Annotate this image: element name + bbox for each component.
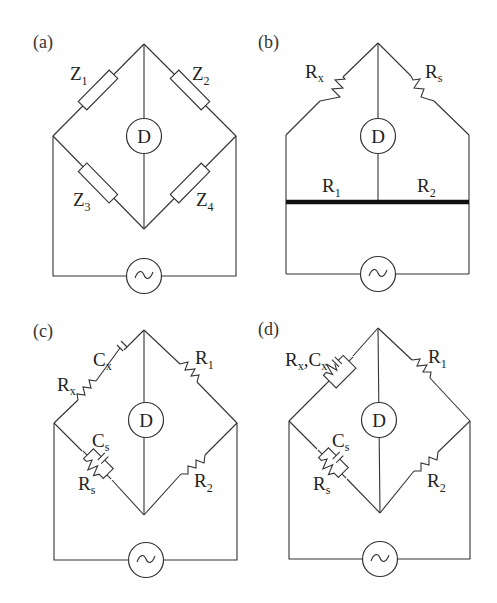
label-r1: R1 xyxy=(322,175,341,200)
svg-text:D: D xyxy=(371,126,385,147)
panel-c-label: (c) xyxy=(33,321,53,342)
label-rs: Rs xyxy=(313,473,331,497)
svg-text:D: D xyxy=(372,410,386,431)
ac-source-icon xyxy=(363,542,398,577)
detector-icon: D xyxy=(361,119,396,154)
label-r2: R2 xyxy=(427,470,446,495)
panel-d: (d) xyxy=(258,319,470,577)
bridge-circuits-figure: (a) Z1 Z2 Z3 Z4 D (b) xyxy=(0,0,497,603)
label-z4: Z4 xyxy=(196,189,214,214)
label-cs: Cs xyxy=(92,430,110,454)
label-r2: R2 xyxy=(417,175,436,200)
detector-icon: D xyxy=(129,403,164,438)
ac-source-icon xyxy=(361,257,396,292)
label-rx: Rx xyxy=(305,61,324,85)
label-rx: Rx xyxy=(57,374,76,398)
detector-icon: D xyxy=(362,403,397,438)
svg-text:D: D xyxy=(139,410,153,431)
panel-b-label: (b) xyxy=(258,32,279,53)
detector-icon: D xyxy=(127,119,162,154)
label-rs: Rs xyxy=(78,473,96,497)
label-cx: Cx xyxy=(93,349,112,373)
label-z1: Z1 xyxy=(70,63,88,88)
label-r1: R1 xyxy=(428,346,447,371)
label-rx-cx: Rx,Cx xyxy=(285,349,327,373)
label-rs: Rs xyxy=(425,61,443,85)
panel-d-label: (d) xyxy=(258,319,279,340)
label-r1: R1 xyxy=(195,347,214,372)
label-z3: Z3 xyxy=(73,189,91,214)
label-cs: Cs xyxy=(332,430,350,454)
panel-b: (b) Rx Rs R1 R2 D xyxy=(258,32,469,292)
panel-a-label: (a) xyxy=(33,32,53,53)
label-r2: R2 xyxy=(194,470,213,495)
ac-source-icon xyxy=(127,259,162,294)
panel-a: (a) Z1 Z2 Z3 Z4 D xyxy=(33,32,236,294)
svg-text:D: D xyxy=(137,126,151,147)
label-z2: Z2 xyxy=(192,63,210,88)
ac-source-icon xyxy=(129,543,164,578)
panel-c: (c) Cx xyxy=(33,321,237,578)
